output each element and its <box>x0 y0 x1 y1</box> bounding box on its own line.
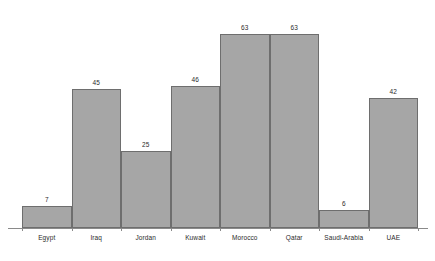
bar-rect[interactable] <box>121 151 171 228</box>
x-axis-tick <box>121 228 122 231</box>
x-axis-tick <box>270 228 271 231</box>
bar-value-label: 42 <box>390 89 397 96</box>
bar-slot[interactable]: 6 <box>319 12 369 228</box>
x-axis-tick <box>22 228 23 231</box>
bar-rect[interactable] <box>171 86 221 228</box>
category-label: Egypt <box>22 234 72 241</box>
bar-slot[interactable]: 63 <box>270 12 320 228</box>
bar-rect[interactable] <box>270 34 320 228</box>
bar-value-label: 7 <box>45 197 49 204</box>
bar-rect[interactable] <box>22 206 72 228</box>
bar-value-label: 46 <box>192 77 199 84</box>
category-label: Iraq <box>72 234 122 241</box>
x-axis-tick <box>72 228 73 231</box>
bar-slot[interactable]: 63 <box>220 12 270 228</box>
category-label: Qatar <box>270 234 320 241</box>
bar-slot[interactable]: 46 <box>171 12 221 228</box>
x-axis-tick <box>171 228 172 231</box>
bar-slot[interactable]: 42 <box>369 12 419 228</box>
bar-chart: 7 45 25 46 63 63 6 42 <box>0 0 435 261</box>
bar-slot[interactable]: 45 <box>72 12 122 228</box>
bar-value-label: 63 <box>291 25 298 32</box>
bar-value-label: 63 <box>241 25 248 32</box>
category-axis: Egypt Iraq Jordan Kuwait Morocco Qatar S… <box>22 234 418 248</box>
bar-slot[interactable]: 7 <box>22 12 72 228</box>
category-label: Kuwait <box>171 234 221 241</box>
category-label: Morocco <box>220 234 270 241</box>
x-axis-tick <box>220 228 221 231</box>
x-axis-tick <box>418 228 419 231</box>
bar-slot[interactable]: 25 <box>121 12 171 228</box>
bar-value-label: 25 <box>142 142 149 149</box>
bar-value-label: 6 <box>342 201 346 208</box>
plot-area: 7 45 25 46 63 63 6 42 <box>22 12 418 228</box>
bar-rect[interactable] <box>319 210 369 229</box>
x-axis-tick <box>369 228 370 231</box>
category-label: Jordan <box>121 234 171 241</box>
bar-value-label: 45 <box>93 80 100 87</box>
bar-rect[interactable] <box>72 89 122 228</box>
bar-rect[interactable] <box>220 34 270 228</box>
category-label: Saudi-Arabia <box>319 234 369 241</box>
bar-rect[interactable] <box>369 98 419 228</box>
category-label: UAE <box>369 234 419 241</box>
x-axis-tick <box>319 228 320 231</box>
